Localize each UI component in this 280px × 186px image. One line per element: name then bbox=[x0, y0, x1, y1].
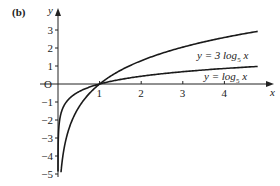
y-axis-label: y bbox=[47, 4, 53, 16]
log-graph: (b) 1234321−1−2−3−4−5 y x O y = 3 log5 x… bbox=[0, 0, 280, 186]
y-tick-label: −2 bbox=[41, 114, 53, 126]
y-tick-label: 2 bbox=[48, 42, 54, 54]
y-tick-label: −4 bbox=[41, 150, 53, 162]
x-tick-label: 1 bbox=[97, 87, 103, 99]
x-tick-label: 4 bbox=[221, 87, 227, 99]
panel-label: (b) bbox=[12, 6, 26, 19]
y-tick-label: −5 bbox=[41, 168, 53, 180]
x-tick-label: 2 bbox=[138, 87, 144, 99]
label-3-log5-x: y = 3 log5 x bbox=[196, 49, 248, 64]
axis-ticks: 1234321−1−2−3−4−5 bbox=[41, 24, 227, 180]
y-tick-label: −3 bbox=[41, 132, 53, 144]
label-log5-x: y = log5 x bbox=[203, 70, 247, 85]
curve-log5-x bbox=[58, 66, 258, 171]
x-tick-label: 3 bbox=[180, 87, 186, 99]
x-axis-label: x bbox=[269, 86, 275, 98]
y-axis-arrow-icon bbox=[55, 8, 61, 16]
y-tick-label: 3 bbox=[48, 24, 54, 36]
y-tick-label: −1 bbox=[41, 96, 53, 108]
origin-label: O bbox=[44, 78, 52, 90]
axes bbox=[40, 8, 274, 177]
y-tick-label: 1 bbox=[48, 60, 54, 72]
